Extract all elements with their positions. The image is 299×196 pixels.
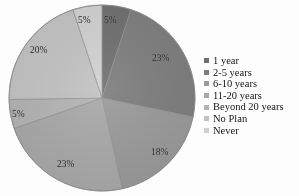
pie-slice-value-label: 20% [30,46,47,56]
legend-item-label: 6-10 years [213,78,257,90]
legend-item[interactable]: 1 year [204,55,299,67]
pie-slice-value-label: 5% [12,110,25,120]
legend-item[interactable]: 11-20 years [204,90,299,102]
pie-shading-overlay [9,5,195,191]
legend-item-label: 2-5 years [213,67,252,79]
pie-slice-value-label: 5% [78,16,91,26]
pie-slice-value-label: 23% [57,160,74,170]
pie-chart-figure: 5%23%18%23%5%20%5% 1 year2-5 years6-10 y… [0,0,299,196]
legend-item[interactable]: No Plan [204,113,299,125]
chart-legend: 1 year2-5 years6-10 years11-20 yearsBeyo… [204,55,299,136]
pie-plot-area: 5%23%18%23%5%20%5% [0,0,205,196]
pie-slice-value-label: 23% [152,54,169,64]
legend-item[interactable]: 2-5 years [204,67,299,79]
legend-item-label: No Plan [213,113,247,125]
legend-item-label: Beyond 20 years [213,101,284,113]
legend-swatch-icon [204,58,209,63]
pie-slice-value-label: 18% [151,148,168,158]
legend-swatch-icon [204,116,209,121]
legend-item[interactable]: Beyond 20 years [204,101,299,113]
legend-swatch-icon [204,128,209,133]
legend-swatch-icon [204,93,209,98]
pie-slice-value-label: 5% [104,16,117,26]
legend-item-label: 11-20 years [213,90,262,102]
legend-swatch-icon [204,81,209,86]
legend-item-label: Never [213,125,239,137]
pie-svg [0,0,205,196]
legend-item[interactable]: Never [204,125,299,137]
legend-swatch-icon [204,70,209,75]
legend-item-label: 1 year [213,55,239,67]
legend-swatch-icon [204,105,209,110]
legend-item[interactable]: 6-10 years [204,78,299,90]
